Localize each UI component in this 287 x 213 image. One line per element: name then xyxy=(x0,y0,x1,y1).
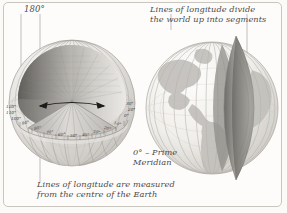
left-globe-graphic xyxy=(9,40,135,169)
tick-label: 120° xyxy=(6,104,16,109)
tick-label: 70° xyxy=(46,129,54,135)
longitude-diagram-figure: 120° 110° 100° 90° 80° 70° 60° 50° 40° 3… xyxy=(0,0,287,213)
tick-label: 30° xyxy=(126,101,133,106)
tick-label: 50° xyxy=(70,133,77,138)
tick-label: 60° xyxy=(58,132,66,137)
tick-label: 100° xyxy=(11,116,21,121)
label-prime-meridian: 0° – Prime Meridian xyxy=(133,148,177,167)
tick-label: 110° xyxy=(6,110,16,115)
tick-label: 0° xyxy=(124,113,129,118)
caption-segments: Lines of longitude divide the world up i… xyxy=(150,5,266,24)
caption-measured-from-centre: Lines of longitude are measured from the… xyxy=(37,180,175,199)
label-180-degrees: 180° xyxy=(24,4,45,14)
tick-label: 40° xyxy=(82,132,90,137)
tick-label: 30° xyxy=(93,129,101,135)
tick-label: 20° xyxy=(128,107,135,112)
